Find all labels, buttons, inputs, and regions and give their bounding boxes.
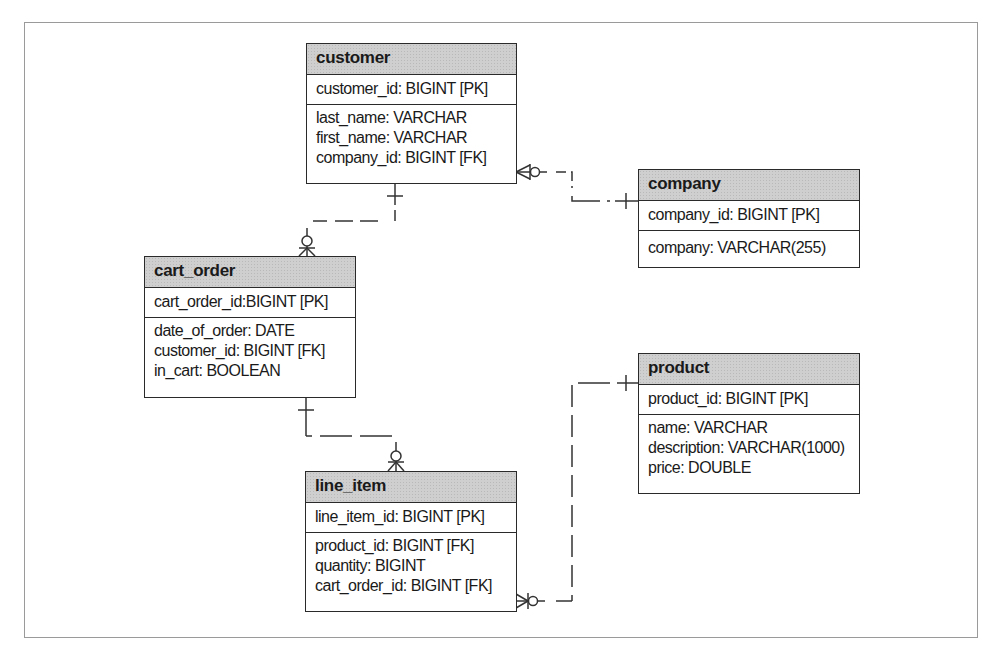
attribute-field: in_cart: BOOLEAN bbox=[154, 361, 355, 381]
attribute-list: name: VARCHAR description: VARCHAR(1000)… bbox=[639, 415, 859, 478]
optional-circle-icon bbox=[531, 168, 540, 177]
attribute-field: price: DOUBLE bbox=[648, 458, 859, 478]
entity-title: customer bbox=[307, 44, 516, 75]
entity-title: line_item bbox=[306, 472, 516, 503]
relationship-customer-cart-order bbox=[299, 183, 403, 256]
field-label: line_item_id: BIGINT [PK] bbox=[315, 508, 485, 525]
attribute-field: date_of_order: DATE bbox=[154, 321, 355, 341]
optional-circle-icon bbox=[529, 597, 538, 606]
attribute-list: date_of_order: DATE customer_id: BIGINT … bbox=[145, 318, 355, 381]
attribute-list: product_id: BIGINT [FK] quantity: BIGINT… bbox=[306, 533, 516, 596]
primary-key-field: customer_id: BIGINT [PK] bbox=[307, 75, 516, 105]
field-label: company_id: BIGINT [PK] bbox=[648, 206, 819, 223]
attribute-field: quantity: BIGINT bbox=[315, 556, 516, 576]
primary-key-field: line_item_id: BIGINT [PK] bbox=[306, 503, 516, 533]
attribute-field: last_name: VARCHAR bbox=[316, 108, 516, 128]
field-label: customer_id: BIGINT [PK] bbox=[316, 80, 488, 97]
field-label: product_id: BIGINT [PK] bbox=[648, 390, 808, 407]
optional-circle-icon bbox=[391, 451, 401, 461]
attribute-field: product_id: BIGINT [FK] bbox=[315, 536, 516, 556]
entity-cart-order[interactable]: cart_order cart_order_id:BIGINT [PK] dat… bbox=[144, 256, 356, 398]
attribute-field: name: VARCHAR bbox=[648, 418, 859, 438]
attribute-list: last_name: VARCHAR first_name: VARCHAR c… bbox=[307, 105, 516, 168]
attribute-list: company: VARCHAR(255) bbox=[639, 231, 859, 258]
entity-product[interactable]: product product_id: BIGINT [PK] name: VA… bbox=[638, 353, 860, 494]
crows-foot-icon bbox=[388, 462, 396, 471]
relationship-customer-company bbox=[516, 164, 638, 209]
optional-circle-icon bbox=[302, 236, 312, 246]
crows-foot-icon bbox=[516, 172, 530, 179]
attribute-field: cart_order_id: BIGINT [FK] bbox=[315, 576, 516, 596]
primary-key-field: cart_order_id:BIGINT [PK] bbox=[145, 288, 355, 318]
primary-key-field: product_id: BIGINT [PK] bbox=[639, 385, 859, 415]
attribute-field: customer_id: BIGINT [FK] bbox=[154, 341, 355, 361]
entity-title: cart_order bbox=[145, 257, 355, 288]
entity-title: product bbox=[639, 354, 859, 385]
attribute-field: company: VARCHAR(255) bbox=[648, 238, 859, 258]
attribute-field: company_id: BIGINT [FK] bbox=[316, 148, 516, 168]
entity-company[interactable]: company company_id: BIGINT [PK] company:… bbox=[638, 169, 860, 268]
primary-key-field: company_id: BIGINT [PK] bbox=[639, 201, 859, 231]
crows-foot-icon bbox=[516, 165, 530, 172]
entity-title: company bbox=[639, 170, 859, 201]
relationship-cart-order-line-item bbox=[298, 397, 404, 471]
attribute-field: first_name: VARCHAR bbox=[316, 128, 516, 148]
entity-customer[interactable]: customer customer_id: BIGINT [PK] last_n… bbox=[306, 43, 517, 184]
crows-foot-icon bbox=[516, 594, 528, 601]
attribute-field: description: VARCHAR(1000) bbox=[648, 438, 859, 458]
crows-foot-icon bbox=[299, 248, 307, 256]
field-label: cart_order_id:BIGINT [PK] bbox=[154, 293, 328, 310]
relationship-product-line-item bbox=[516, 375, 638, 609]
entity-line-item[interactable]: line_item line_item_id: BIGINT [PK] prod… bbox=[305, 471, 517, 612]
